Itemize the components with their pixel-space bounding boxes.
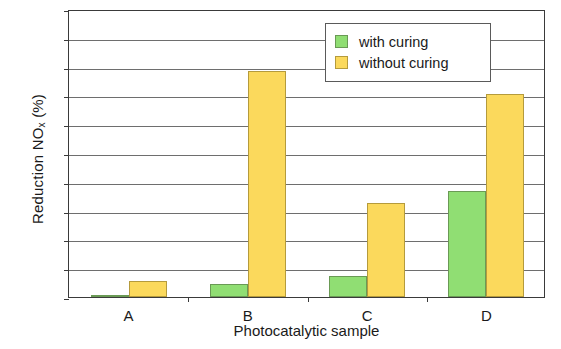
x-axis-tick-mark	[427, 297, 428, 302]
legend-item-with-curing: with curing	[335, 31, 481, 52]
bar-C-with-curing	[329, 276, 367, 297]
y-axis-title: Reduction NOx (%)	[29, 29, 47, 289]
x-axis-tick-mark	[308, 297, 309, 302]
bar-group	[69, 11, 188, 297]
legend-swatch-without-curing	[335, 56, 348, 69]
bar-A-with-curing	[91, 295, 129, 297]
bar-A-without-curing	[129, 281, 167, 297]
legend-swatch-with-curing	[335, 35, 348, 48]
legend-item-without-curing: without curing	[335, 52, 481, 73]
bar-B-with-curing	[210, 284, 248, 297]
bar-group	[188, 11, 307, 297]
x-axis-tick-mark	[188, 297, 189, 302]
legend-label-without-curing: without curing	[359, 55, 448, 71]
legend-label-with-curing: with curing	[359, 34, 428, 50]
bar-chart: Reduction NOx (%) 05101520253035404550 A…	[0, 0, 561, 349]
legend: with curing without curing	[325, 23, 491, 82]
bar-B-without-curing	[248, 71, 286, 297]
bar-C-without-curing	[367, 203, 405, 297]
bar-D-with-curing	[448, 191, 486, 297]
x-axis-title: Photocatalytic sample	[68, 322, 545, 339]
bar-D-without-curing	[486, 94, 524, 297]
y-axis-title-prefix: Reduction NO	[29, 127, 46, 224]
y-axis-title-subscript: x	[36, 122, 47, 127]
y-axis-tick-mark	[64, 299, 69, 300]
y-axis-title-suffix: (%)	[29, 94, 46, 122]
